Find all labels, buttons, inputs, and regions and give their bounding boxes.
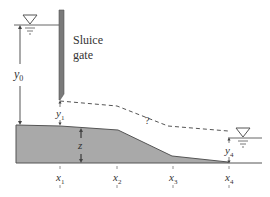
sluice-gate-diagram: Sluice gate y0 ? y1 z y4 x1 x2 x3 bbox=[0, 0, 270, 197]
y4-label: y4 bbox=[224, 144, 234, 159]
svg-text:x2: x2 bbox=[112, 171, 122, 186]
station-x3: x3 bbox=[168, 166, 178, 188]
gate-label-line2: gate bbox=[73, 48, 93, 62]
station-x2: x2 bbox=[112, 166, 122, 188]
svg-text:x1: x1 bbox=[55, 171, 65, 186]
svg-text:x4: x4 bbox=[224, 171, 234, 186]
station-x1: x1 bbox=[55, 166, 65, 188]
channel-bed bbox=[16, 125, 228, 163]
water-surface-profile bbox=[60, 101, 228, 131]
sluice-gate bbox=[59, 10, 64, 100]
svg-text:x3: x3 bbox=[168, 171, 178, 186]
unknown-marker: ? bbox=[145, 115, 150, 126]
station-x4: x4 bbox=[224, 166, 234, 188]
y0-label: y0 bbox=[13, 67, 23, 83]
y1-label: y1 bbox=[55, 107, 65, 122]
z-label: z bbox=[77, 139, 83, 151]
gate-label-line1: Sluice bbox=[73, 33, 103, 47]
